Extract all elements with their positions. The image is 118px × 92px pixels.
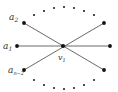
ellipsis-dot-bottom xyxy=(53,87,55,89)
vertex-a1 xyxy=(15,44,19,48)
ellipsis-dot-bottom xyxy=(43,84,45,86)
ellipsis-dot-bottom xyxy=(33,79,35,81)
label-v1: v1 xyxy=(58,53,66,63)
label-an-2: an−2 xyxy=(8,65,24,76)
vertex-v1 xyxy=(61,44,65,48)
ellipsis-dot-bottom xyxy=(73,87,75,89)
vertex-a2 xyxy=(22,21,26,25)
ellipsis-dot-bottom xyxy=(63,88,65,90)
ellipsis-dot-top xyxy=(63,6,65,8)
vertex-right-mid xyxy=(108,44,112,48)
ellipsis-dot-top xyxy=(53,7,55,9)
vertex-right-bottom xyxy=(102,68,106,72)
vertex-right-top xyxy=(102,21,106,25)
ellipsis-dot-top xyxy=(33,14,35,16)
ellipsis-dot-top xyxy=(83,10,85,12)
ellipsis-dot-top xyxy=(73,7,75,9)
label-a2: a2 xyxy=(9,12,18,23)
ellipsis-dot-top xyxy=(43,10,45,12)
ellipsis-dot-bottom xyxy=(93,79,95,81)
ellipsis-dot-bottom xyxy=(83,84,85,86)
ellipsis-dot-top xyxy=(93,14,95,16)
graph-diagram: a2 a1 an−2 v1 xyxy=(0,0,118,92)
label-a1: a1 xyxy=(3,41,12,52)
